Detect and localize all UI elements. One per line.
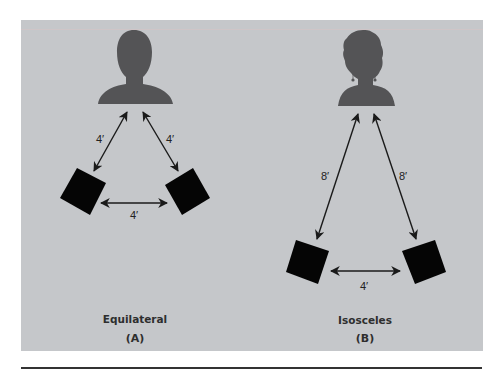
right-speaker-icon-b [402, 240, 446, 284]
caption-title-a: Equilateral [103, 313, 167, 325]
left-speaker-icon-b [286, 240, 329, 284]
distance-label-bottom-b: 4′ [360, 280, 368, 292]
distance-label-left-b: 8′ [321, 170, 329, 182]
caption-letter-b: (B) [356, 332, 374, 345]
distance-label-left-a: 4′ [96, 133, 104, 145]
caption-letter-a: (A) [126, 332, 145, 345]
listener-head-earrings-icon [338, 30, 395, 106]
panel-a-equilateral: 4′ 4′ 4′ Equilateral (A) [60, 30, 210, 345]
distance-label-bottom-a: 4′ [130, 209, 138, 221]
right-speaker-icon-a [165, 168, 210, 215]
distance-label-right-b: 8′ [399, 170, 407, 182]
figure-bottom-rule [21, 367, 482, 369]
speaker-placement-diagram: 4′ 4′ 4′ Equilateral (A) 8′ 8′ 4′ Isosce… [0, 0, 500, 371]
caption-title-b: Isosceles [338, 314, 392, 326]
listener-head-icon [98, 30, 173, 104]
left-speaker-icon-a [60, 168, 106, 215]
earring-left-icon [351, 78, 354, 81]
arrow-listener-right-speaker-b [374, 114, 416, 239]
earring-right-icon [373, 78, 376, 81]
distance-label-right-a: 4′ [166, 133, 174, 145]
panel-b-isosceles: 8′ 8′ 4′ Isosceles (B) [286, 30, 446, 345]
